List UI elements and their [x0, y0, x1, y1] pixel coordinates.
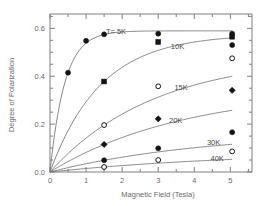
- y-tick-label: 0.6: [35, 24, 45, 33]
- x-axis-title: Magnetic Field (Tesla): [121, 190, 195, 199]
- point-30k: [156, 146, 161, 151]
- y-tick-label: 0.4: [35, 72, 45, 81]
- point-20k: [101, 141, 107, 147]
- annotation-t--5k: T= 5K: [106, 27, 126, 36]
- point-30k: [102, 158, 107, 163]
- point-10k: [230, 34, 235, 39]
- fit-curves: [50, 31, 232, 172]
- annotation-20k: 20K: [169, 116, 182, 125]
- annotation-30k: 30K: [207, 138, 220, 147]
- point-40k: [102, 165, 107, 170]
- point-20k: [155, 116, 161, 122]
- x-tick-label: 3: [156, 176, 160, 185]
- point-10k-alt: [230, 43, 235, 48]
- curve-t--5k: [50, 31, 232, 172]
- annotation-15k: 15K: [174, 83, 187, 92]
- annotation-40k: 40K: [211, 154, 224, 163]
- plot-axes: [50, 14, 252, 172]
- point-40k: [230, 149, 235, 154]
- point-15k: [230, 56, 235, 61]
- point-10k: [102, 79, 107, 84]
- point-40k: [156, 158, 161, 163]
- x-tick-label: 0: [48, 176, 52, 185]
- annotation-10k: 10K: [171, 42, 184, 51]
- point-20k: [229, 87, 235, 93]
- point-15k: [102, 123, 107, 128]
- y-tick-label: 0.2: [35, 120, 45, 129]
- curve-30k: [50, 144, 232, 172]
- x-tick-label: 5: [228, 176, 232, 185]
- y-tick-label: 0.0: [35, 168, 45, 177]
- x-tick-label: 2: [120, 176, 124, 185]
- curve-15k: [50, 76, 232, 172]
- chart-figure: 0123450.00.20.40.6 T= 5K10K15K20K30K40K …: [0, 0, 266, 206]
- point-30k: [230, 130, 235, 135]
- y-axis-title: Degree of Polarization: [7, 58, 16, 132]
- point-t--5k: [156, 31, 161, 36]
- point-15k: [156, 84, 161, 89]
- x-tick-label: 1: [84, 176, 88, 185]
- polarization-vs-field-chart: 0123450.00.20.40.6 T= 5K10K15K20K30K40K …: [0, 0, 266, 206]
- curve-20k: [50, 110, 232, 172]
- point-t--5k: [66, 70, 71, 75]
- x-tick-label: 4: [192, 176, 196, 185]
- point-t--5k: [84, 38, 89, 43]
- point-10k: [156, 40, 161, 45]
- plot-frame: [50, 14, 252, 172]
